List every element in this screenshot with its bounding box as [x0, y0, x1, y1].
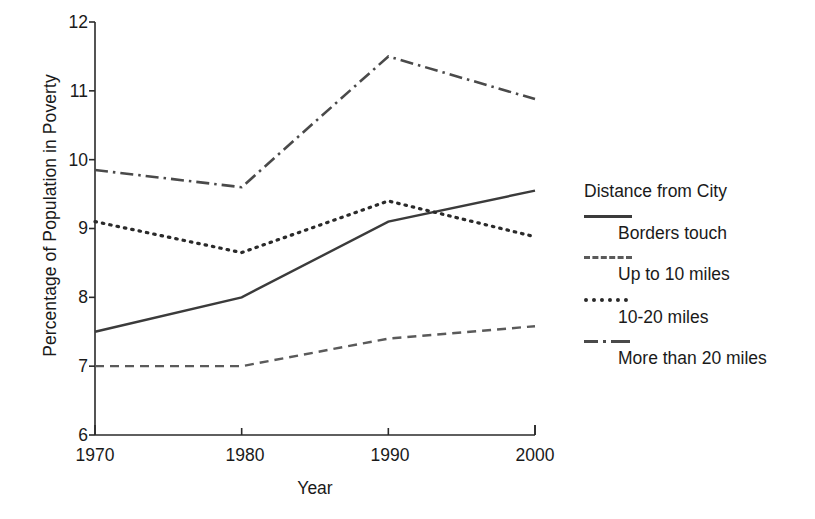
dotted-line-swatch: [584, 298, 628, 302]
legend-entry-10-20-miles[interactable]: 10-20 miles: [584, 298, 815, 327]
solid-line-swatch: [584, 215, 632, 218]
series-line-more-than-20-miles: [95, 56, 535, 187]
legend-label-borders-touch: Borders touch: [584, 225, 815, 243]
legend-entry-borders-touch[interactable]: Borders touch: [584, 215, 815, 243]
legend-label-10-20-miles: 10-20 miles: [584, 309, 815, 327]
poverty-by-distance-line-chart: Percentage of Population in Poverty 12 1…: [0, 0, 815, 519]
dashed-line-swatch: [584, 256, 632, 259]
series-line-10-20-miles: [95, 201, 535, 253]
legend-entry-up-to-10-miles[interactable]: Up to 10 miles: [584, 256, 815, 284]
legend-label-up-to-10-miles: Up to 10 miles: [584, 266, 815, 284]
legend-title: Distance from City: [584, 183, 815, 201]
dash-dot-line-swatch: [584, 340, 630, 343]
series-line-up-to-10-miles: [95, 326, 535, 366]
series-line-borders-touch: [95, 191, 535, 332]
legend-label-more-than-20-miles: More than 20 miles: [584, 350, 815, 368]
legend-entry-more-than-20-miles[interactable]: More than 20 miles: [584, 340, 815, 368]
legend: Distance from City Borders touch Up to 1…: [584, 183, 815, 368]
